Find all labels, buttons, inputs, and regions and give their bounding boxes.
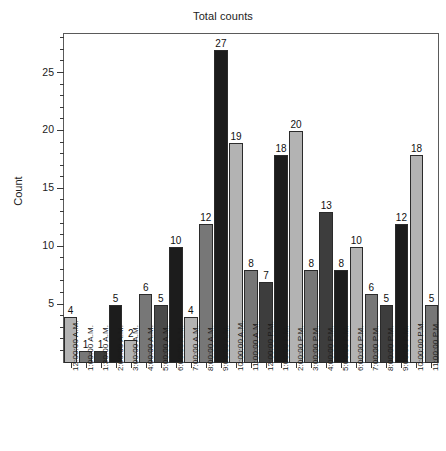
x-axis-tick-label: 6:00:00 P.M. [356, 325, 365, 371]
bar-slot[interactable]: 13 [319, 33, 333, 363]
y-axis-tick-label: 5 [48, 297, 54, 309]
x-axis-tick-label: 11:00:00 P.M. [431, 322, 440, 371]
x-axis-tick-label: 8:00:00 A.M. [206, 325, 215, 371]
x-axis-tick-label: 6:00:00 A.M. [176, 325, 185, 371]
bar-slot[interactable]: 8 [334, 33, 348, 363]
x-axis-tick-label: 3:00:00 P.M. [311, 325, 320, 371]
bar-value-label: 4 [188, 305, 194, 316]
x-axis-tick-label: 1:00:00 A.M. [86, 325, 95, 371]
bar-slot[interactable]: 19 [229, 33, 243, 363]
bar-value-label: 19 [230, 131, 241, 142]
y-axis-tick-label: 15 [42, 181, 54, 193]
bar[interactable] [214, 50, 228, 363]
x-axis-tick-label: 3:00:00 A.M. [131, 325, 140, 371]
bar-value-label: 20 [291, 119, 302, 130]
x-axis-tick-label: 2:00:00 P.M. [296, 325, 305, 371]
x-axis-tick-label: 10:00:00 A.M. [236, 320, 245, 371]
bar-slot[interactable]: 27 [214, 33, 228, 363]
bar-value-label: 6 [143, 282, 149, 293]
bar-value-label: 18 [411, 143, 422, 154]
bar-slot[interactable]: 5 [425, 33, 439, 363]
bar-value-label: 27 [215, 38, 226, 49]
x-axis-tick-label: 10:00:00 P.M. [416, 321, 425, 371]
bar-slot[interactable]: 2 [124, 33, 138, 363]
bar-value-label: 18 [276, 143, 287, 154]
bar-value-label: 7 [263, 270, 269, 281]
bar-slot[interactable]: 20 [289, 33, 303, 363]
x-axis-tick-label: 7:00:00 A.M. [191, 325, 200, 371]
bar-value-label: 10 [351, 235, 362, 246]
bar-slot[interactable]: 18 [274, 33, 288, 363]
x-axis-tick-label: 1:00:00 P.M. [281, 325, 290, 371]
bar-value-label: 10 [170, 235, 181, 246]
chart-title: Total counts [0, 10, 446, 22]
bar-slot[interactable]: 10 [169, 33, 183, 363]
bar-value-label: 5 [113, 293, 119, 304]
x-axis-tick-label: 12:00:00 P.M. [266, 321, 275, 371]
bar-slot[interactable]: 6 [139, 33, 153, 363]
bar-slot[interactable]: 1 [79, 33, 93, 363]
x-axis-tick-label: 9:00:00 A.M. [221, 325, 230, 371]
bar-slot[interactable]: 4 [184, 33, 198, 363]
bar-slot[interactable]: 12 [199, 33, 213, 363]
y-axis-title: Count [12, 151, 24, 231]
bar-slot[interactable]: 7 [259, 33, 273, 363]
bar-value-label: 4 [68, 305, 74, 316]
bar-slot[interactable]: 12 [395, 33, 409, 363]
x-axis-tick-label: 2:00:00 A.M. [116, 325, 125, 371]
x-axis-tick-label: 7:00:00 P.M. [371, 325, 380, 371]
bar-slot[interactable]: 10 [350, 33, 364, 363]
y-axis-tick-label: 25 [42, 66, 54, 78]
bar-value-label: 12 [396, 212, 407, 223]
bar-slot[interactable]: 1 [94, 33, 108, 363]
bar-value-label: 5 [384, 293, 390, 304]
x-axis-ticks: 12:00:00 A.M.1:00:00 A.M.1:30:00 A.M.2:0… [63, 363, 439, 451]
bar-slot[interactable]: 4 [64, 33, 78, 363]
bar-slot[interactable]: 5 [154, 33, 168, 363]
bar-value-label: 8 [248, 258, 254, 269]
bar-value-label: 5 [158, 293, 164, 304]
bar-value-label: 6 [369, 282, 375, 293]
bar-slot[interactable]: 6 [365, 33, 379, 363]
bar-slot[interactable]: 8 [244, 33, 258, 363]
bar-slot[interactable]: 18 [410, 33, 424, 363]
bar-chart: Total counts Count 510152025 41152651041… [0, 0, 446, 451]
bar-slot[interactable]: 8 [304, 33, 318, 363]
x-axis-tick-label: 12:00:00 A.M. [71, 320, 80, 371]
bar-value-label: 8 [338, 258, 344, 269]
x-axis-tick-label: 8:00:00 P.M. [386, 325, 395, 371]
x-axis-tick-label: 5:00:00 A.M. [161, 325, 170, 371]
bars-layer: 41152651041227198718208138106512185 [63, 33, 439, 363]
x-axis-tick-label: 4:00:00 P.M. [326, 325, 335, 371]
bar-slot[interactable]: 5 [109, 33, 123, 363]
x-axis-tick-label: 1:30:00 A.M. [101, 325, 110, 371]
bar-value-label: 8 [308, 258, 314, 269]
bar-value-label: 5 [429, 293, 435, 304]
y-axis-tick-label: 10 [42, 239, 54, 251]
x-axis-tick-label: 4:00:00 A.M. [146, 325, 155, 371]
bar-value-label: 12 [200, 212, 211, 223]
x-axis-tick-label: 5:00:00 P.M. [341, 325, 350, 371]
x-axis-tick-label: 9:00:00 P.M. [401, 325, 410, 371]
bar-slot[interactable]: 5 [380, 33, 394, 363]
bar-value-label: 13 [321, 200, 332, 211]
x-axis-tick-label: 11:00:00 A.M. [251, 321, 260, 371]
y-axis-tick-label: 20 [42, 123, 54, 135]
